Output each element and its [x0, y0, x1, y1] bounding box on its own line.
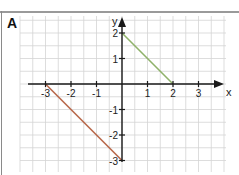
y-axis-label: y: [112, 15, 118, 27]
x-tick-label: 3: [196, 88, 202, 99]
x-tick-label: -3: [41, 88, 50, 99]
x-tick-label: -2: [67, 88, 76, 99]
x-tick-label: 1: [145, 88, 151, 99]
y-axis-arrow-icon: [118, 17, 126, 27]
y-tick-label: -1: [109, 105, 118, 116]
x-tick-label: -1: [92, 88, 101, 99]
chart: x y -3-2-1123-3-2-112: [0, 0, 239, 175]
x-tick-label: 2: [170, 88, 176, 99]
y-tick-label: 1: [112, 54, 118, 65]
x-axis-arrow-icon: [214, 80, 224, 88]
y-tick-label: -2: [109, 130, 118, 141]
x-axis-label: x: [226, 86, 232, 98]
y-tick-label: 2: [112, 28, 118, 39]
y-tick-label: -3: [109, 156, 118, 167]
